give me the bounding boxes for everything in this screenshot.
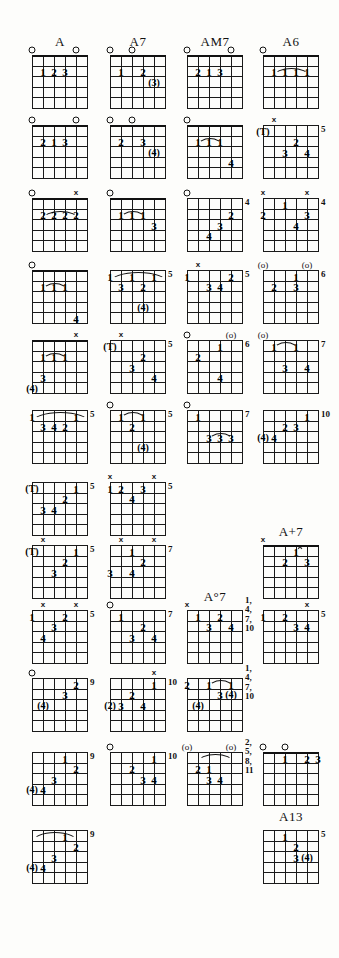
fret-line	[263, 382, 319, 383]
finger-number: 3	[315, 753, 321, 764]
open-string-icon	[228, 47, 235, 54]
finger-number: 1	[217, 137, 223, 148]
muted-string-icon: x	[261, 536, 265, 544]
string-line	[165, 410, 166, 463]
finger-number: 2	[129, 764, 135, 775]
finger-number: 2	[195, 764, 201, 775]
string-line	[165, 55, 166, 108]
muted-string-icon: x	[74, 189, 78, 197]
string-line	[209, 270, 210, 323]
nut-line	[110, 752, 166, 753]
string-line	[43, 125, 44, 178]
finger-number: 2	[282, 611, 288, 622]
finger-number: 4	[129, 494, 135, 505]
finger-number: 1	[73, 483, 79, 494]
string-line	[231, 340, 232, 393]
fret-line	[263, 323, 319, 324]
string-line	[87, 545, 88, 598]
fretboard-grid	[263, 55, 318, 108]
chord-diagram: x12(2)3410	[110, 678, 166, 732]
fret-line	[32, 587, 88, 588]
string-line	[54, 198, 55, 251]
fret-line	[187, 157, 243, 158]
open-string-icon	[260, 47, 267, 54]
string-line	[165, 482, 166, 535]
muted-string-icon: x	[41, 601, 45, 609]
string-line	[165, 340, 166, 393]
string-line	[110, 125, 111, 178]
fretboard-grid	[32, 340, 87, 393]
chord-diagram: x12345	[187, 270, 243, 324]
nut-line	[32, 830, 88, 831]
fret-line	[263, 773, 319, 774]
string-line	[121, 752, 122, 805]
fret-line	[110, 556, 166, 557]
open-string-icon	[29, 670, 36, 677]
fret-line	[187, 731, 243, 732]
finger-number: 1	[304, 411, 310, 422]
finger-number: 2	[129, 422, 135, 433]
finger-number: 1	[51, 282, 57, 293]
string-line	[87, 482, 88, 535]
finger-number: 2	[228, 210, 234, 221]
fret-line	[32, 566, 88, 567]
chord-diagram: 1114	[187, 125, 243, 179]
nut-line	[32, 752, 88, 753]
fret-position-number: 9	[90, 752, 95, 761]
nut-line	[187, 55, 243, 57]
fret-line	[187, 240, 243, 241]
chord-title: A°7	[185, 589, 245, 605]
string-line	[220, 125, 221, 178]
string-line	[187, 125, 188, 178]
string-line	[43, 752, 44, 805]
finger-number: 3	[293, 852, 299, 863]
finger-number: 1	[195, 137, 201, 148]
string-line	[87, 752, 88, 805]
fret-line	[32, 763, 88, 764]
string-line	[263, 545, 264, 598]
fret-line	[110, 524, 166, 525]
fret-line	[187, 230, 243, 231]
fret-position-number: 9	[90, 830, 95, 839]
string-line	[231, 55, 232, 108]
finger-number: 3	[140, 137, 146, 148]
fretboard-grid	[263, 198, 318, 251]
fret-line	[187, 209, 243, 210]
string-line	[132, 198, 133, 251]
chord-diagram: x2222	[32, 198, 88, 252]
fret-line	[187, 652, 243, 653]
nut-line	[110, 545, 166, 546]
nut-line	[187, 198, 243, 199]
string-line	[43, 198, 44, 251]
chord-diagram: 123410	[110, 752, 166, 806]
fret-line	[32, 178, 88, 179]
chord-diagram: 23(4)9	[32, 678, 88, 732]
fret-line	[263, 251, 319, 252]
string-line	[132, 55, 133, 108]
chord-diagram: (o)1246	[187, 340, 243, 394]
fretboard-grid	[110, 545, 165, 598]
finger-number: 3	[206, 282, 212, 293]
fret-position-number: 9	[90, 678, 95, 687]
string-line	[318, 270, 319, 323]
fret-line	[110, 566, 166, 567]
fret-line	[110, 805, 166, 806]
chord-diagram: x12341, 4, 7, 10	[187, 610, 243, 664]
fret-line	[32, 577, 88, 578]
string-line	[187, 610, 188, 663]
string-line	[132, 678, 133, 731]
finger-number: 3	[40, 422, 46, 433]
chord-diagram: (o)11347	[263, 340, 319, 394]
fret-line	[263, 302, 319, 303]
finger-number: 3	[129, 362, 135, 373]
string-line	[318, 125, 319, 178]
finger-number: 3	[293, 622, 299, 633]
fret-line	[263, 652, 319, 653]
nut-line	[187, 678, 243, 679]
fret-line	[110, 382, 166, 383]
fretboard-grid	[187, 198, 242, 251]
finger-number: 3	[140, 774, 146, 785]
chord-diagram: 123(4)49	[32, 752, 88, 806]
open-string-icon	[29, 262, 36, 269]
finger-number: 3	[51, 567, 57, 578]
